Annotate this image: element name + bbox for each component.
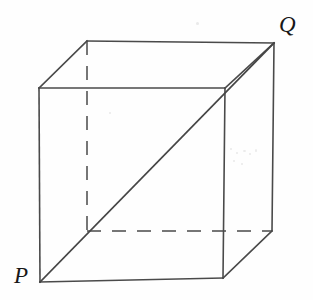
- vertex-label-p: P: [14, 264, 28, 287]
- cube-svg: [0, 0, 313, 300]
- edge-front-bottom: [40, 278, 223, 282]
- edge-back-right: [272, 43, 274, 231]
- edge-front-right: [223, 88, 225, 278]
- vertex-label-q: Q: [279, 13, 296, 36]
- cube-diagram-canvas: P Q: [0, 0, 313, 300]
- edge-top-left-connector: [39, 41, 87, 88]
- edge-back-top: [87, 41, 274, 43]
- edge-front-left: [39, 88, 40, 282]
- space-diagonal-line: [40, 43, 274, 282]
- edge-bottom-right-connector: [223, 231, 272, 278]
